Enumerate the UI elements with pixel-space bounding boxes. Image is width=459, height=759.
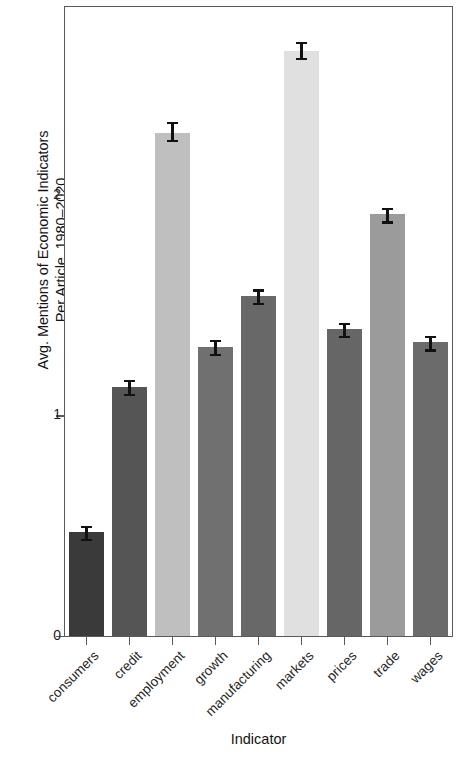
x-tick-mark [430, 636, 431, 645]
error-bar-cap-lower [296, 58, 307, 60]
error-bar-cap-upper [339, 323, 350, 325]
x-tick-mark [344, 636, 345, 645]
error-bar [300, 42, 302, 58]
error-bar-cap-lower [81, 539, 92, 541]
x-tick-mark [86, 636, 87, 645]
error-bar-cap-lower [339, 336, 350, 338]
x-tick-label: wages [407, 648, 445, 686]
bar[interactable] [198, 347, 232, 636]
x-tick-label: credit [110, 648, 144, 682]
bar[interactable] [112, 387, 146, 636]
bar[interactable] [370, 214, 404, 636]
x-tick-label: markets [272, 648, 317, 693]
plot-area: 012 consumerscreditemploymentgrowthmanuf… [64, 6, 453, 637]
bar[interactable] [413, 342, 447, 636]
error-bar-cap-upper [124, 380, 135, 382]
bar[interactable] [284, 51, 318, 636]
x-tick-label: consumers [44, 648, 101, 705]
error-bar-cap-upper [253, 289, 264, 291]
x-tick-label: trade [370, 648, 402, 680]
error-bar-cap-lower [167, 140, 178, 142]
error-bar-cap-upper [382, 208, 393, 210]
y-tick-label: 0 [53, 627, 61, 643]
error-bar-cap-upper [167, 122, 178, 124]
error-bar-cap-lower [124, 394, 135, 396]
x-tick-mark [258, 636, 259, 645]
bars-layer [65, 7, 452, 636]
bar[interactable] [327, 329, 361, 636]
x-tick-label: growth [191, 648, 230, 687]
error-bar-cap-lower [253, 303, 264, 305]
x-tick-mark [387, 636, 388, 645]
x-tick-mark [215, 636, 216, 645]
error-bar-cap-upper [425, 336, 436, 338]
bar[interactable] [155, 133, 189, 636]
bar-chart-figure: Avg. Mentions of Economic Indicators Per… [0, 0, 459, 759]
x-tick-mark [172, 636, 173, 645]
x-tick-mark [301, 636, 302, 645]
bar[interactable] [69, 532, 103, 636]
x-tick-label: prices [323, 648, 359, 684]
error-bar-cap-lower [425, 349, 436, 351]
x-tick-mark [129, 636, 130, 645]
error-bar-cap-upper [81, 526, 92, 528]
error-bar-cap-upper [210, 340, 221, 342]
y-tick-label: 2 [53, 186, 61, 202]
error-bar-cap-lower [382, 221, 393, 223]
x-axis-title: Indicator [64, 731, 453, 747]
error-bar-cap-lower [210, 354, 221, 356]
bar[interactable] [241, 296, 275, 636]
y-tick-label: 1 [53, 406, 61, 422]
y-axis-title-line-1: Avg. Mentions of Economic Indicators [34, 131, 52, 370]
error-bar-cap-upper [296, 42, 307, 44]
error-bar [171, 122, 173, 140]
